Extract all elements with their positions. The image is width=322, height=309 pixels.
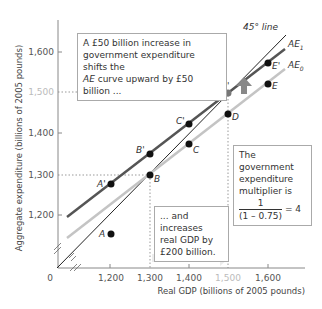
annotation-text: government expenditure shifts the — [83, 49, 221, 73]
svg-text:E': E' — [272, 61, 280, 71]
annotation-text: £200 billion. — [160, 246, 223, 258]
label-ae1: AE1 — [287, 39, 304, 51]
annotation-text: expenditure — [239, 173, 306, 185]
x-axis-title: Real GDP (billions of 2005 pounds) — [157, 286, 305, 296]
svg-text:1,300: 1,300 — [28, 170, 54, 180]
svg-text:1,200: 1,200 — [28, 210, 54, 220]
svg-text:1,600: 1,600 — [28, 47, 54, 57]
multiplier-formula: 1(1 – 0.75) = 4 — [239, 197, 306, 222]
svg-text:1,200: 1,200 — [98, 273, 124, 283]
svg-text:1,400: 1,400 — [28, 128, 54, 138]
annotation-shift-box: A £50 billion increase in government exp… — [77, 33, 227, 101]
svg-text:1,400: 1,400 — [176, 273, 202, 283]
svg-text:C': C' — [176, 116, 185, 126]
upward-shift-arrow — [236, 77, 252, 94]
aggregate-expenditure-chart: 1,600 1,500 1,400 1,300 1,200 0 1,200 1,… — [0, 0, 322, 309]
svg-text:A': A' — [96, 179, 106, 189]
label-ae0: AE0 — [287, 60, 304, 72]
annotation-text: multiplier is — [239, 185, 306, 197]
svg-text:1,600: 1,600 — [255, 273, 281, 283]
annotation-multiplier-box: The government expenditure multiplier is… — [233, 145, 312, 226]
annotation-text: The government — [239, 149, 306, 173]
svg-text:1,300: 1,300 — [137, 273, 163, 283]
svg-text:0: 0 — [47, 273, 53, 283]
svg-text:E: E — [272, 81, 278, 91]
x-tick-labels: 0 1,200 1,300 1,400 1,500 1,600 — [47, 273, 281, 283]
y-axis-title: Aggregate expenditure (billions of 2005 … — [14, 45, 24, 251]
svg-text:D: D — [232, 112, 239, 122]
svg-text:1,500: 1,500 — [215, 273, 241, 283]
annotation-text: A £50 billion increase in — [83, 37, 221, 49]
svg-text:B: B — [154, 174, 160, 184]
annotation-text: real GDP by — [160, 234, 223, 246]
label-45-line: 45° line — [243, 22, 279, 32]
annotation-text: ... and increases — [160, 210, 223, 234]
svg-text:C: C — [193, 145, 200, 155]
annotation-gdp-box: ... and increases real GDP by £200 billi… — [154, 206, 229, 262]
y-tick-labels: 1,600 1,500 1,400 1,300 1,200 — [28, 47, 54, 220]
svg-text:B': B' — [136, 145, 145, 155]
svg-text:A: A — [98, 229, 105, 239]
svg-text:1,500: 1,500 — [28, 87, 54, 97]
annotation-text: AE curve upward by £50 billion ... — [83, 73, 221, 97]
